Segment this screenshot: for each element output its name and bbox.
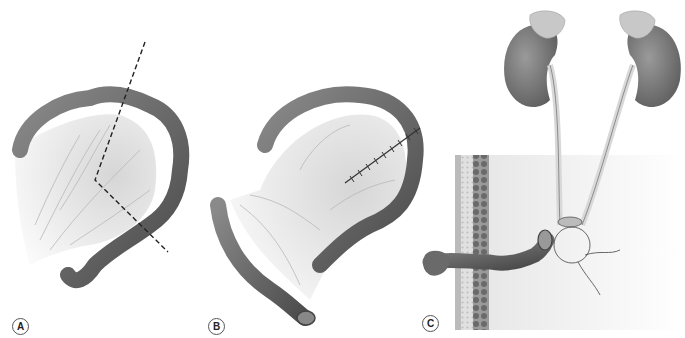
figure-canvas xyxy=(0,0,685,338)
abdominal-wall-skin xyxy=(455,155,461,330)
panel-c-illustration xyxy=(423,11,685,330)
panel-label-a: A xyxy=(12,318,29,335)
colon-b-lumen xyxy=(297,311,315,325)
panel-b-illustration xyxy=(218,94,420,325)
conduit-lumen xyxy=(538,230,552,250)
abdominal-field xyxy=(455,155,685,330)
abdominal-wall-muscle xyxy=(473,155,489,330)
panel-a-illustration xyxy=(15,42,181,280)
panel-label-c: C xyxy=(422,315,439,332)
abdominal-wall-fat xyxy=(461,155,473,330)
stoma-c xyxy=(423,251,450,276)
ureteric-anastomosis xyxy=(558,217,582,227)
panel-label-b: B xyxy=(208,318,225,335)
